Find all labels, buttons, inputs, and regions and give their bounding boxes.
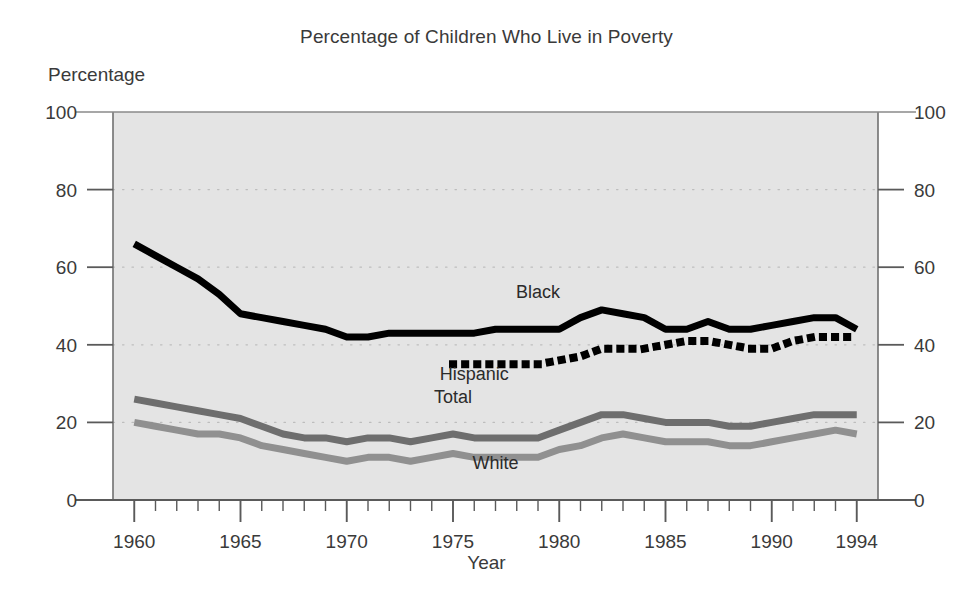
y-tick-label-right: 80 bbox=[914, 180, 935, 201]
series-label-total: Total bbox=[434, 387, 472, 407]
series-label-white: White bbox=[472, 453, 518, 473]
x-tick-label: 1990 bbox=[751, 531, 793, 552]
y-axis-labels-left: 020406080100 bbox=[45, 102, 77, 511]
y-tick-label: 80 bbox=[56, 180, 77, 201]
y-tick-label: 40 bbox=[56, 335, 77, 356]
x-tick-label: 1975 bbox=[432, 531, 474, 552]
x-tick-label: 1980 bbox=[538, 531, 580, 552]
y-tick-label-right: 40 bbox=[914, 335, 935, 356]
x-tick-label: 1985 bbox=[644, 531, 686, 552]
y-tick-label-right: 0 bbox=[914, 490, 925, 511]
x-tick-label: 1970 bbox=[326, 531, 368, 552]
plot-canvas: 020406080100 020406080100 19601965197019… bbox=[0, 0, 973, 595]
x-tick-label: 1965 bbox=[219, 531, 261, 552]
x-axis-title: Year bbox=[0, 552, 973, 574]
x-tick-label: 1960 bbox=[113, 531, 155, 552]
y-tick-label: 100 bbox=[45, 102, 77, 123]
x-tick-label: 1994 bbox=[836, 531, 879, 552]
y-tick-label: 0 bbox=[66, 490, 77, 511]
y-tick-label-right: 20 bbox=[914, 412, 935, 433]
y-tick-label: 60 bbox=[56, 257, 77, 278]
series-label-black: Black bbox=[516, 282, 561, 302]
y-tick-label: 20 bbox=[56, 412, 77, 433]
x-axis-labels: 19601965197019751980198519901994 bbox=[113, 531, 878, 552]
y-axis-labels-right: 020406080100 bbox=[914, 102, 946, 511]
series-label-hispanic: Hispanic bbox=[440, 364, 509, 384]
poverty-line-chart: Percentage of Children Who Live in Pover… bbox=[0, 0, 973, 595]
y-tick-label-right: 100 bbox=[914, 102, 946, 123]
y-tick-label-right: 60 bbox=[914, 257, 935, 278]
